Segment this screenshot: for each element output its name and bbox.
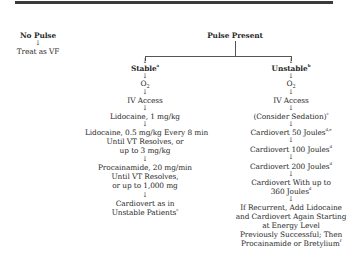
arrow-down-icon: ↓ (140, 156, 150, 163)
branch-connector (145, 56, 291, 57)
unstable-recurrent-step: If Recurrent, Add Lidocaine and Cardiove… (231, 203, 351, 248)
arrow-down-icon: ↓ (140, 121, 150, 128)
arrow-down-icon: ↓ (286, 196, 296, 203)
treat-as-vf-text: Treat as VF (10, 47, 66, 56)
arrow-down-icon: ↓ (286, 137, 296, 144)
unstable-cardiovert-360-step: Cardiovert With up to 360 Joulesd (241, 178, 341, 196)
arrow-down-icon: ↓ (286, 171, 296, 178)
arrow-down-icon: ↓ (286, 121, 296, 128)
stable-lidocaine-repeat-step: Lidocaine, 0.5 mg/kg Every 8 min Until V… (85, 128, 205, 155)
pulse-present-title: Pulse Present (200, 31, 270, 40)
root-connector (235, 41, 236, 56)
arrow-down-icon: ↓ (33, 40, 43, 47)
arrow-down-icon: ↓ (286, 89, 296, 96)
arrow-down-icon: ↓ (286, 105, 296, 112)
arrow-down-icon: ↓ (286, 154, 296, 161)
stable-procainamide-step: Procainamide, 20 mg/min Until VT Resolve… (95, 163, 195, 190)
arrow-down-icon: ↓ (140, 192, 150, 199)
header-rule (15, 1, 333, 4)
arrow-down-icon: ↓ (140, 89, 150, 96)
arrow-down-icon: ↓ (140, 105, 150, 112)
stable-cardiovert-step: Cardiovert as in Unstable Patientsc (100, 199, 190, 217)
